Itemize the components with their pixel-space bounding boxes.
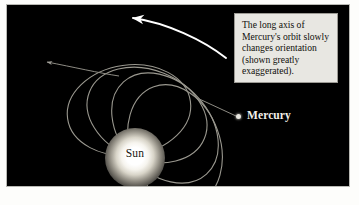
figure-page: Sun Mercury The long axis of Mercury's o… — [0, 0, 359, 205]
mercury-label: Mercury — [247, 108, 291, 122]
sun-label: Sun — [105, 147, 165, 159]
orbit-ellipse-3 — [90, 52, 240, 186]
orbit-ellipse-4 — [112, 71, 239, 186]
orbit-ellipse-2 — [73, 50, 222, 180]
astronomy-diagram-panel: Sun Mercury The long axis of Mercury's o… — [7, 5, 349, 186]
mercury-pointer-line — [195, 97, 236, 116]
precession-direction-arrow — [133, 18, 226, 58]
caption-box: The long axis of Mercury's orbit slowly … — [234, 13, 338, 83]
mercury-dot — [236, 114, 241, 119]
caption-text: The long axis of Mercury's orbit slowly … — [242, 19, 331, 77]
